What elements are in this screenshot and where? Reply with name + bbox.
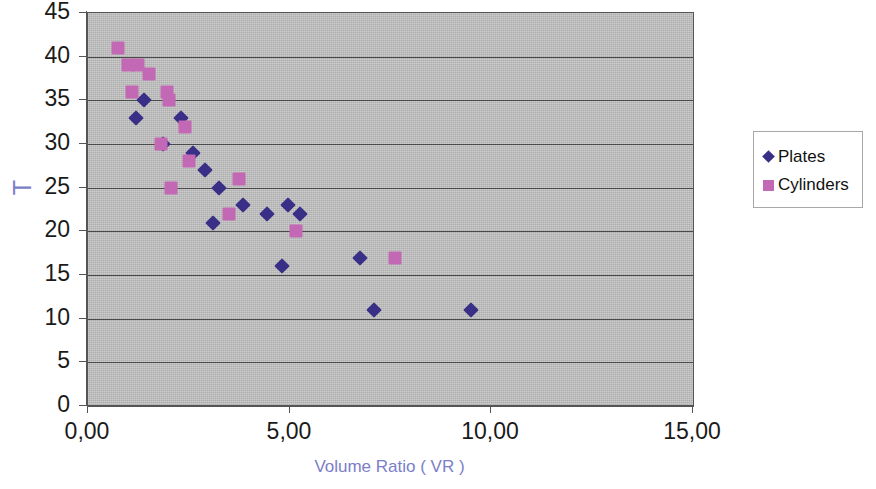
gridline — [88, 57, 693, 58]
data-point-cylinders — [233, 172, 246, 185]
legend-label-plates: Plates — [778, 148, 825, 165]
y-axis-tick-label: 40 — [10, 44, 70, 67]
data-point-cylinders — [289, 225, 302, 238]
x-axis-tick-label: 10,00 — [430, 420, 550, 443]
data-point-plates — [260, 206, 276, 222]
data-point-plates — [236, 197, 252, 213]
gridline — [88, 231, 693, 232]
square-marker-icon — [761, 176, 778, 193]
data-point-cylinders — [154, 138, 167, 151]
y-axis-tick — [79, 361, 87, 362]
data-point-plates — [280, 197, 296, 213]
data-point-cylinders — [126, 85, 139, 98]
gridline — [88, 362, 693, 363]
x-axis-title: Volume Ratio ( VR ) — [87, 458, 692, 475]
data-point-cylinders — [142, 68, 155, 81]
y-axis-tick — [79, 187, 87, 188]
data-point-plates — [129, 110, 145, 126]
data-point-plates — [197, 162, 213, 178]
y-axis-tick — [79, 274, 87, 275]
y-axis-line — [86, 11, 87, 406]
data-point-cylinders — [164, 181, 177, 194]
x-axis-line — [86, 405, 693, 406]
data-point-cylinders — [178, 120, 191, 133]
y-axis-tick — [79, 318, 87, 319]
y-axis-tick — [79, 56, 87, 57]
y-axis-tick — [79, 143, 87, 144]
plot-background-texture — [88, 13, 693, 406]
y-axis-tick — [79, 99, 87, 100]
data-point-plates — [211, 180, 227, 196]
legend-label-cylinders: Cylinders — [778, 176, 849, 193]
x-axis-tick-label: 5,00 — [229, 420, 349, 443]
data-point-plates — [205, 215, 221, 231]
x-axis-tick — [490, 405, 491, 413]
data-point-plates — [274, 258, 290, 274]
data-point-plates — [367, 302, 383, 318]
x-axis-tick — [289, 405, 290, 413]
diamond-marker-icon — [761, 148, 778, 165]
data-point-plates — [463, 302, 479, 318]
gridline — [88, 144, 693, 145]
data-point-plates — [137, 93, 153, 109]
gridline — [88, 275, 693, 276]
y-axis-tick — [79, 230, 87, 231]
data-point-plates — [352, 250, 368, 266]
data-point-cylinders — [162, 94, 175, 107]
legend: Plates Cylinders — [753, 131, 863, 208]
plot-area — [87, 12, 694, 407]
y-axis-tick-label: 0 — [10, 393, 70, 416]
data-point-cylinders — [182, 155, 195, 168]
y-axis-tick — [79, 405, 87, 406]
data-point-plates — [292, 206, 308, 222]
y-axis-tick-label: 10 — [10, 306, 70, 329]
y-axis-tick-label: 45 — [10, 0, 70, 23]
y-axis-tick-label: 5 — [10, 349, 70, 372]
scatter-chart: 051015202530354045 0,005,0010,0015,00 T … — [0, 0, 876, 489]
data-point-cylinders — [223, 207, 236, 220]
gridline — [88, 100, 693, 101]
data-point-cylinders — [388, 251, 401, 264]
y-axis-tick-label: 35 — [10, 87, 70, 110]
y-axis-tick — [79, 12, 87, 13]
x-axis-tick — [87, 405, 88, 413]
x-axis-tick-label: 0,00 — [27, 420, 147, 443]
gridline — [88, 188, 693, 189]
legend-entry-cylinders[interactable]: Cylinders — [761, 170, 862, 198]
y-axis-tick-label: 30 — [10, 131, 70, 154]
y-axis-title: T — [10, 168, 35, 208]
legend-entry-plates[interactable]: Plates — [761, 142, 862, 170]
gridline — [88, 319, 693, 320]
y-axis-tick-label: 15 — [10, 262, 70, 285]
x-axis-tick-label: 15,00 — [632, 420, 752, 443]
y-axis-tick-label: 20 — [10, 218, 70, 241]
x-axis-tick — [692, 405, 693, 413]
data-point-cylinders — [112, 41, 125, 54]
